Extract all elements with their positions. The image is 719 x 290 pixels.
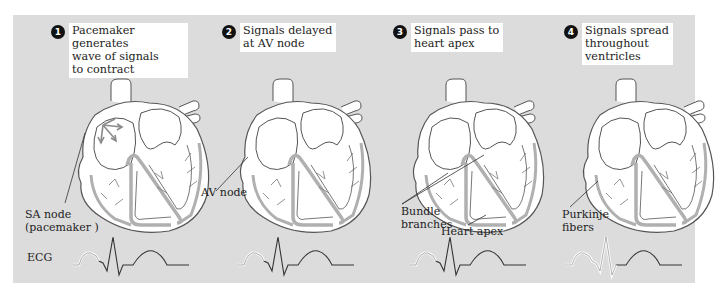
purkinje-fibers-label: Purkinje fibers [562,209,609,234]
ecg-p-qrs-highlight [566,237,616,275]
step-3: 3 Signals pass to heart apex Bundle bran… [358,15,528,283]
step-4: 4 Signals spread throughout ventricles P… [528,15,695,283]
ecg-p-wave-highlight [238,253,264,265]
ecg-trace-step-4 [566,237,686,277]
ecg-trace-step-3 [410,237,530,277]
ecg-p-wave-highlight [73,253,99,265]
step-1: 1 Pacemaker generates wave of signals to… [13,15,188,283]
ecg-label: ECG [27,251,52,264]
av-node-label: AV node [201,187,247,200]
step-2: 2 Signals delayed at AV node AV node [188,15,358,283]
ecg-trace-step-1 [73,237,193,277]
sa-node-label: SA node (pacemaker ) [25,209,99,234]
ecg-trace-step-2 [238,237,358,277]
cardiac-conduction-figure: 1 Pacemaker generates wave of signals to… [13,15,695,283]
ecg-p-wave-highlight [410,253,436,265]
